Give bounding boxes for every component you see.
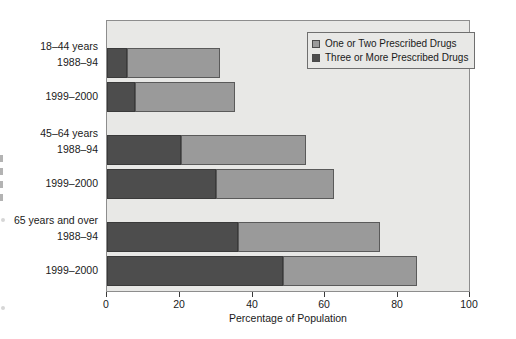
y-axis-group-label-45-64: 45–64 years [40,127,98,139]
x-axis-tick [179,292,180,297]
dark-gray-swatch-icon [312,54,320,62]
bar-segment-three-or-more [107,169,216,199]
legend-item-one-or-two: One or Two Prescribed Drugs [312,37,468,50]
scan-artifact-dot [1,306,5,310]
legend-item-three-or-more: Three or More Prescribed Drugs [312,51,468,64]
bar-segment-three-or-more [107,222,238,252]
x-axis-tick-label: 40 [246,298,258,310]
plot-area: One or Two Prescribed Drugs Three or Mor… [106,20,470,292]
bar-segment-three-or-more [107,48,127,78]
bar-segment-one-or-two [135,82,235,112]
y-axis-group-label-18-44: 18–44 years [40,40,98,52]
x-axis-tick [469,292,470,297]
bar-segment-one-or-two [216,169,334,199]
bar-segment-one-or-two [238,222,380,252]
x-axis-tick [252,292,253,297]
y-axis-period-label: 1999–2000 [45,90,98,102]
legend-label: Three or More Prescribed Drugs [325,52,468,64]
x-axis-tick-label: 0 [103,298,109,310]
bar-segment-one-or-two [127,48,220,78]
y-axis-period-label: 1999–2000 [45,177,98,189]
bar-segment-three-or-more [107,256,283,286]
legend-label: One or Two Prescribed Drugs [325,38,457,50]
x-axis-title: Percentage of Population [106,312,470,324]
y-axis-period-label: 1988–94 [57,230,98,242]
bar-segment-three-or-more [107,82,135,112]
x-axis-tick-label: 80 [391,298,403,310]
y-axis-period-label: 1988–94 [57,56,98,68]
light-gray-swatch-icon [312,40,320,48]
stacked-bar-chart-figure: One or Two Prescribed Drugs Three or Mor… [0,0,516,339]
x-axis-tick-label: 100 [460,298,478,310]
y-axis-group-label-65-plus: 65 years and over [14,214,98,226]
x-axis-tick-label: 20 [173,298,185,310]
y-axis-label-group: 18–44 years 1988–94 1999–2000 45–64 year… [0,20,102,292]
x-axis-tick [324,292,325,297]
x-axis-tick-label: 60 [318,298,330,310]
x-axis-tick [106,292,107,297]
bar-segment-one-or-two [283,256,417,286]
bar-segment-three-or-more [107,135,181,165]
y-axis-period-label: 1988–94 [57,143,98,155]
bar-segment-one-or-two [181,135,306,165]
chart-legend: One or Two Prescribed Drugs Three or Mor… [307,32,475,69]
x-axis-tick [397,292,398,297]
y-axis-period-label: 1999–2000 [45,264,98,276]
